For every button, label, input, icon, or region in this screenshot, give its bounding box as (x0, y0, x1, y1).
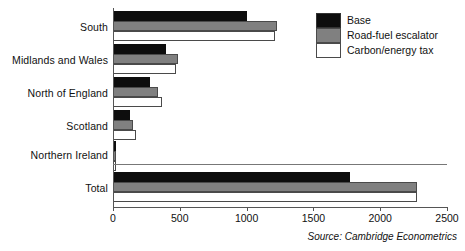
y-axis-labels: SouthMidlands and WalesNorth of EnglandS… (0, 0, 108, 251)
legend-label: Road-fuel escalator (347, 29, 438, 42)
bar-escalator (113, 182, 417, 192)
bar-chart: SouthMidlands and WalesNorth of EnglandS… (0, 0, 465, 251)
x-tick (447, 207, 448, 211)
x-tick (380, 207, 381, 211)
legend-swatch-base (316, 13, 341, 28)
category-label: North of England (0, 88, 108, 99)
legend-item: Carbon/energy tax (316, 43, 462, 58)
bar-carbon (113, 192, 417, 202)
legend-item: Base (316, 13, 462, 28)
source-note: Source: Cambridge Econometrics (307, 231, 457, 242)
legend-swatch-carbon (316, 43, 341, 58)
category-label: Total (0, 183, 108, 194)
bar-escalator (113, 87, 158, 97)
y-axis-line (113, 8, 114, 207)
total-separator-line (113, 164, 447, 165)
x-tick-label: 1000 (235, 212, 258, 224)
x-tick (113, 207, 114, 211)
category-label: Northern Ireland (0, 150, 108, 161)
legend-swatch-escalator (316, 28, 341, 43)
bar-base (113, 11, 247, 21)
x-tick (313, 207, 314, 211)
chart-legend: BaseRoad-fuel escalatorCarbon/energy tax (316, 13, 462, 58)
x-tick-label: 2000 (369, 212, 392, 224)
x-tick-label: 0 (110, 212, 116, 224)
bar-carbon (113, 97, 162, 107)
bar-base (113, 110, 130, 120)
x-axis-line (113, 207, 447, 208)
bar-escalator (113, 54, 178, 64)
x-tick-label: 2500 (435, 212, 458, 224)
bar-carbon (113, 64, 176, 74)
bar-escalator (113, 21, 277, 31)
category-label: Scotland (0, 121, 108, 132)
bar-escalator (113, 120, 133, 130)
bar-base (113, 172, 350, 182)
category-label: Midlands and Wales (0, 55, 108, 66)
x-tick (247, 207, 248, 211)
legend-item: Road-fuel escalator (316, 28, 462, 43)
bar-carbon (113, 31, 275, 41)
x-tick (180, 207, 181, 211)
bar-base (113, 77, 150, 87)
bar-carbon (113, 130, 136, 140)
x-tick-label: 500 (171, 212, 189, 224)
bar-base (113, 44, 166, 54)
category-label: South (0, 22, 108, 33)
legend-label: Base (347, 14, 371, 27)
x-tick-label: 1500 (302, 212, 325, 224)
legend-label: Carbon/energy tax (347, 44, 433, 57)
